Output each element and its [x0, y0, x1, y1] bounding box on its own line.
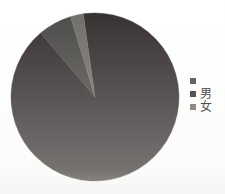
chart-legend: 男 女 [186, 74, 225, 124]
pie-chart-figure: 男 女 [0, 0, 225, 194]
legend-swatch-icon-1 [190, 91, 196, 97]
legend-label-female: 女 [200, 101, 212, 113]
legend-swatch-icon-2 [190, 104, 196, 110]
pie-plot-area [0, 0, 190, 194]
legend-item-0[interactable] [186, 74, 200, 87]
pie-svg [0, 0, 190, 194]
legend-label-male: 男 [200, 88, 212, 100]
legend-item-male[interactable]: 男 [186, 87, 212, 100]
legend-item-female[interactable]: 女 [186, 100, 212, 113]
pie-slices-group [11, 13, 179, 181]
legend-swatch-icon-0 [190, 78, 196, 84]
